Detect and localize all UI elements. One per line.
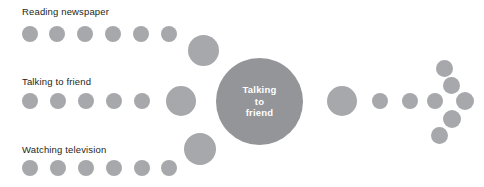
watching-television-row-bubble xyxy=(22,160,38,176)
reading-newspaper-row-bubble xyxy=(161,26,177,42)
reading-newspaper-row-bubble xyxy=(133,26,149,42)
hub-label-line: friend xyxy=(246,107,274,119)
watching-television-row-bubble xyxy=(78,160,94,176)
watching-television-row-bubble xyxy=(106,160,122,176)
output-fan-bubble xyxy=(431,127,448,144)
reading-newspaper-row-bubble xyxy=(22,26,38,42)
row-label: Reading newspaper xyxy=(22,6,109,17)
reading-newspaper-row-bubble xyxy=(105,26,121,42)
hub-label-line: to xyxy=(255,96,264,108)
row-label: Watching television xyxy=(22,144,106,155)
bubble-flow-diagram: TalkingtofriendReading newspaperTalking … xyxy=(0,0,484,187)
reading-newspaper-merge-bubble xyxy=(188,35,219,66)
output-stream-bubble xyxy=(372,93,388,109)
watching-television-merge-bubble xyxy=(184,133,216,165)
output-stream-bubble xyxy=(402,93,418,109)
watching-television-row-bubble xyxy=(50,160,66,176)
talking-to-friend-row-bubble xyxy=(106,93,122,109)
output-fan-bubble xyxy=(443,77,460,94)
watching-television-row-bubble xyxy=(134,160,150,176)
hub-bubble-talking-to-friend: Talkingtofriend xyxy=(216,58,303,145)
row-label: Talking to friend xyxy=(22,76,91,87)
output-fan-bubble xyxy=(427,93,443,109)
output-stream-bubble xyxy=(327,86,357,116)
talking-to-friend-row-bubble xyxy=(22,93,38,109)
output-fan-bubble xyxy=(436,60,453,77)
output-fan-bubble xyxy=(443,110,461,128)
talking-to-friend-row-bubble xyxy=(50,93,66,109)
talking-to-friend-row-bubble xyxy=(78,93,94,109)
talking-to-friend-merge-bubble xyxy=(166,86,196,116)
talking-to-friend-row-bubble xyxy=(134,93,150,109)
hub-label-line: Talking xyxy=(243,84,277,96)
watching-television-row-bubble xyxy=(161,160,177,176)
reading-newspaper-row-bubble xyxy=(49,26,65,42)
reading-newspaper-row-bubble xyxy=(77,26,93,42)
output-fan-bubble xyxy=(456,92,474,110)
